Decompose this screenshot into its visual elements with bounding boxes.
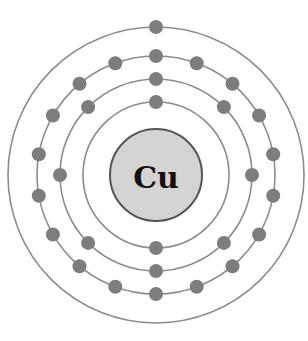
electron-icon xyxy=(149,20,163,34)
electron-icon xyxy=(266,189,280,203)
electron-icon xyxy=(108,56,122,70)
electron-icon xyxy=(252,228,266,242)
electron-icon xyxy=(149,49,163,63)
electron-icon xyxy=(190,56,204,70)
electron-icon xyxy=(226,77,240,91)
electron-icon xyxy=(149,264,163,278)
electron-icon xyxy=(32,147,46,161)
electron-icon xyxy=(149,72,163,86)
electron-icon xyxy=(226,259,240,273)
electron-icon xyxy=(149,287,163,301)
electron-icon xyxy=(245,168,259,182)
electron-icon xyxy=(217,100,231,114)
electron-icon xyxy=(81,236,95,250)
electron-icon xyxy=(46,228,60,242)
electron-icon xyxy=(73,77,87,91)
bohr-model-diagram: Cu xyxy=(0,0,308,341)
electron-icon xyxy=(81,100,95,114)
electron-icon xyxy=(217,236,231,250)
electron-icon xyxy=(266,147,280,161)
electron-icon xyxy=(252,109,266,123)
electron-icon xyxy=(149,241,163,255)
electron-icon xyxy=(53,168,67,182)
electron-icon xyxy=(46,109,60,123)
electron-icon xyxy=(108,280,122,294)
electron-icon xyxy=(190,280,204,294)
electron-icon xyxy=(149,95,163,109)
element-symbol: Cu xyxy=(133,160,179,195)
electron-icon xyxy=(32,189,46,203)
electron-icon xyxy=(73,259,87,273)
